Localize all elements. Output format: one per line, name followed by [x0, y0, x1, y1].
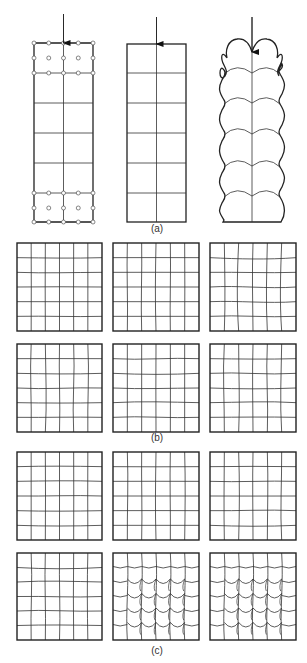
- mesh-node-icon: [91, 191, 95, 195]
- mesh-node-icon: [32, 191, 36, 195]
- mesh-node-icon: [62, 191, 66, 195]
- figure-canvas: (a) (b) (c): [0, 0, 307, 663]
- mesh-node-icon: [32, 56, 36, 60]
- mesh-node-icon: [62, 56, 66, 60]
- grid-h-line: [210, 510, 296, 511]
- mesh-node-icon: [47, 71, 51, 75]
- panel-label-b: (b): [151, 432, 163, 443]
- grid-h-line: [210, 373, 296, 374]
- grid-v-line: [281, 344, 282, 432]
- grid-b-1: [17, 243, 102, 331]
- mesh-node-icon: [91, 220, 95, 224]
- grid-c-5: [113, 553, 199, 640]
- grid-h-line: [210, 287, 296, 288]
- mesh-node-icon: [76, 206, 80, 210]
- grid-v-line: [224, 344, 225, 432]
- grid-v-line: [280, 243, 281, 331]
- grid-v-line: [224, 243, 225, 331]
- mesh-node-icon: [76, 41, 80, 45]
- mesh-node-icon: [62, 71, 66, 75]
- mesh-node-icon: [47, 206, 51, 210]
- grid-c-1: [17, 452, 102, 540]
- grid-b-4: [17, 344, 102, 432]
- grid-c-6: [210, 553, 296, 640]
- mesh-node-icon: [32, 71, 36, 75]
- mesh-node-icon: [91, 56, 95, 60]
- grid-h-line: [17, 625, 102, 626]
- grid-b-6: [210, 344, 296, 432]
- mesh-node-icon: [32, 220, 36, 224]
- grid-b-5: [113, 344, 199, 432]
- grid-h-line: [17, 481, 102, 482]
- mesh-node-icon: [76, 191, 80, 195]
- mesh-node-icon: [32, 206, 36, 210]
- grid-h-line: [113, 417, 199, 418]
- grid-c-3: [210, 452, 296, 540]
- grid-h-line: [17, 610, 102, 611]
- panel-label-a: (a): [151, 223, 163, 234]
- grid-b-2: [113, 243, 199, 331]
- column-initial: [127, 17, 186, 222]
- grid-v-line: [45, 344, 46, 432]
- grid-c-4: [17, 553, 102, 640]
- grid-h-line: [210, 316, 296, 317]
- mesh-node-icon: [91, 206, 95, 210]
- mesh-node-icon: [76, 56, 80, 60]
- grid-b-3: [210, 243, 296, 331]
- mesh-node-icon: [76, 220, 80, 224]
- grid-h-line: [210, 481, 296, 482]
- grid-c-2: [113, 452, 199, 540]
- mesh-node-icon: [91, 41, 95, 45]
- mesh-node-icon: [62, 220, 66, 224]
- grid-v-line: [266, 243, 267, 331]
- grid-h-line: [113, 358, 199, 359]
- grid-v-line: [239, 344, 240, 432]
- mesh-node-icon: [76, 71, 80, 75]
- mesh-node-icon: [62, 206, 66, 210]
- column-deformed: [220, 17, 285, 222]
- grid-h-line: [17, 596, 102, 597]
- mesh-node-icon: [47, 56, 51, 60]
- mesh-node-icon: [47, 191, 51, 195]
- grid-h-line: [17, 388, 102, 389]
- mesh-node-icon: [32, 41, 36, 45]
- mesh-node-icon: [47, 220, 51, 224]
- grid-v-line: [267, 344, 268, 432]
- mesh-node-icon: [91, 71, 95, 75]
- panel-labels: (a) (b) (c): [151, 223, 163, 656]
- column-meshed: [32, 14, 95, 224]
- panel-a-columns: [32, 14, 284, 224]
- mesh-node-icon: [47, 41, 51, 45]
- panel-label-c: (c): [151, 645, 163, 656]
- grid-v-line: [31, 344, 32, 432]
